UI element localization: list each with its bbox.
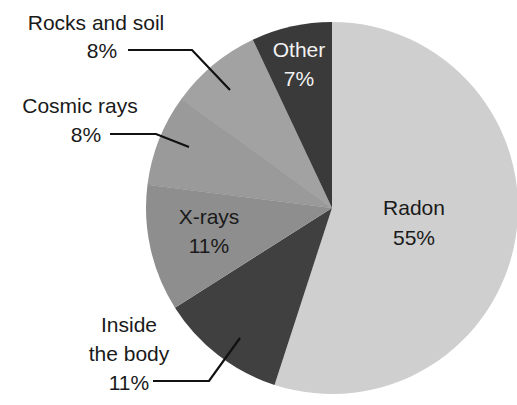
label-rocks-name: Rocks and soil [28, 11, 165, 34]
label-xrays-pct: 11% [189, 234, 229, 257]
label-other-pct: 7% [284, 67, 314, 90]
label-radon-pct: 55% [393, 226, 435, 249]
label-inside-pct: 11% [109, 371, 149, 394]
label-xrays-name: X-rays [179, 205, 240, 228]
pie-chart: Rocks and soil 8% Cosmic rays 8% Other 7… [0, 0, 517, 405]
label-radon-name: Radon [383, 196, 445, 219]
label-other-name: Other [273, 38, 326, 61]
label-cosmic-pct: 8% [71, 123, 101, 146]
label-rocks-pct: 8% [87, 39, 117, 62]
label-inside-name2: the body [89, 342, 170, 365]
label-cosmic-name: Cosmic rays [22, 94, 138, 117]
label-inside-name1: Inside [101, 313, 157, 336]
